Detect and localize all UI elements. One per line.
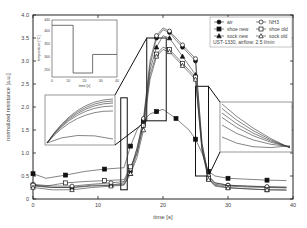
svg-text:0: 0: [51, 79, 53, 83]
y-tick-label: 2.5: [21, 81, 29, 87]
y-tick-label: 1.0: [21, 150, 29, 156]
y-tick-label: 0.5: [21, 173, 29, 179]
y-tick-label: 4.0: [21, 12, 29, 18]
x-axis-label: time [s]: [153, 214, 173, 220]
temperature-inset: 010203040250300350400440time [s]temperat…: [37, 18, 119, 88]
x-tick-label: 0: [31, 202, 34, 208]
annotation: UST-1330, airflow: 2.5 l/min: [213, 39, 275, 45]
legend-item: shoe new: [214, 26, 249, 32]
svg-text:400: 400: [44, 29, 50, 33]
inset-x-label: time [s]: [79, 84, 90, 88]
y-axis-label: normalized resistance [a.u.]: [5, 73, 11, 141]
chart-figure: 01020304000.51.01.52.02.53.03.54.0 01020…: [0, 0, 307, 228]
svg-text:350: 350: [44, 42, 50, 46]
zoom-box: [121, 98, 128, 190]
x-tick-label: 20: [160, 202, 166, 208]
y-tick-label: 3.0: [21, 58, 29, 64]
svg-text:shoe old: shoe old: [269, 26, 288, 32]
y-tick-label: 2.0: [21, 104, 29, 110]
x-tick-label: 10: [95, 202, 101, 208]
inset-y-label: temperature [°C]: [37, 36, 41, 62]
svg-text:20: 20: [83, 79, 87, 83]
x-tick-label: 40: [290, 202, 296, 208]
svg-text:NH3: NH3: [269, 19, 279, 25]
svg-text:440: 440: [44, 18, 50, 22]
svg-text:air: air: [227, 19, 233, 25]
svg-text:300: 300: [44, 55, 50, 59]
legend-item: shoe old: [256, 26, 288, 32]
svg-text:30: 30: [99, 79, 103, 83]
legend: airshoe newsock newNH3shoe oldsock oldUS…: [210, 17, 292, 47]
y-tick-label: 0: [26, 196, 29, 202]
y-tick-label: 3.5: [21, 35, 29, 41]
x-tick-label: 30: [225, 202, 231, 208]
svg-text:40: 40: [115, 79, 119, 83]
resistance-chart: 01020304000.51.01.52.02.53.03.54.0 01020…: [0, 0, 307, 228]
svg-text:10: 10: [66, 79, 70, 83]
svg-text:250: 250: [44, 68, 50, 72]
y-tick-label: 1.5: [21, 127, 29, 133]
svg-text:shoe new: shoe new: [227, 26, 249, 32]
